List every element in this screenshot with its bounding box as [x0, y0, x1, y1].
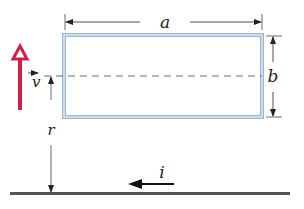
label-r: r: [47, 121, 55, 139]
label-v: v: [28, 73, 41, 91]
svg-text:v: v: [32, 73, 41, 91]
current-wire: [10, 192, 290, 195]
label-a: a: [160, 12, 170, 32]
label-b: b: [268, 66, 279, 86]
velocity-arrow: [13, 46, 27, 110]
label-i: i: [159, 162, 164, 182]
loop-wire-diagram: a b v r i: [0, 0, 304, 209]
current-arrow: [128, 179, 174, 189]
